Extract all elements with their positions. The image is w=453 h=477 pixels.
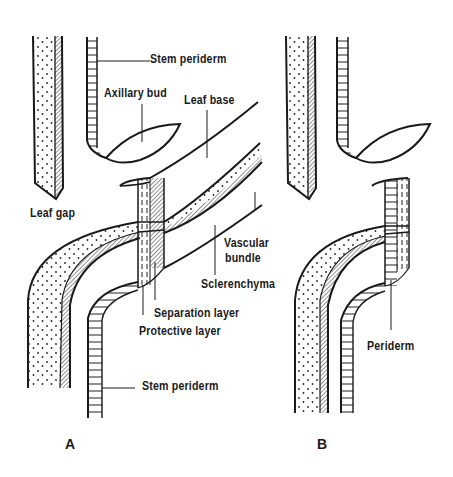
label-leaf-base: Leaf base [184, 93, 235, 107]
axillary-bud-shape [106, 124, 180, 163]
label-separation-layer: Separation layer [154, 306, 239, 320]
label-protective-layer: Protective layer [139, 324, 221, 338]
label-vascular-bundle-2: bundle [225, 251, 261, 265]
panel-b-drawing [286, 36, 430, 413]
upper-stem-periderm-b [337, 37, 356, 158]
upper-stem-tissue-b [286, 36, 316, 199]
panel-label-b: B [317, 436, 327, 452]
label-vascular-bundle-1: Vascular [224, 236, 269, 250]
panel-label-a: A [65, 436, 75, 452]
label-axillary-bud: Axillary bud [104, 86, 167, 100]
label-stem-periderm-top: Stem periderm [150, 52, 227, 66]
label-periderm: Periderm [367, 339, 414, 353]
lower-stem-curve-a [28, 222, 140, 388]
label-stem-periderm-bottom: Stem periderm [142, 379, 219, 393]
abscission-zone-a [138, 178, 164, 288]
label-sclerenchyma: Sclerenchyma [201, 277, 275, 291]
label-leaf-gap: Leaf gap [30, 206, 75, 220]
axillary-bud-shape-b [356, 124, 430, 163]
lower-stem-periderm [88, 282, 138, 418]
upper-stem-tissue [33, 36, 63, 199]
